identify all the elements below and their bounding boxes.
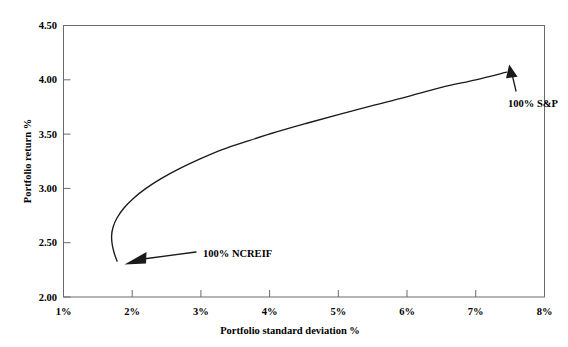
x-tick-label-6pct: 6%	[399, 306, 415, 317]
x-tick-label-4pct: 4%	[262, 306, 278, 317]
x-tick-label-2pct: 2%	[124, 306, 140, 317]
y-tick-label-4.00: 4.00	[39, 74, 57, 85]
y-tick-label-4.50: 4.50	[39, 20, 57, 31]
x-tick-label-7pct: 7%	[468, 306, 484, 317]
annotation-label-sp: 100% S&P	[508, 98, 558, 109]
x-tick-label-8pct: 8%	[537, 306, 553, 317]
y-tick-label-3.50: 3.50	[39, 129, 57, 140]
y-tick-label-2.00: 2.00	[39, 292, 57, 303]
y-tick-label-3.00: 3.00	[39, 183, 57, 194]
y-axis-title: Portfolio return %	[22, 119, 33, 203]
chart-page: 4.50 4.00 3.50 3.00 2.50 2.00 1% 2% 3% 4…	[0, 0, 568, 347]
x-tick-label-5pct: 5%	[330, 306, 346, 317]
x-tick-label-1pct: 1%	[56, 306, 72, 317]
x-axis-title: Portfolio standard deviation %	[220, 325, 360, 336]
chart-background	[0, 0, 568, 347]
efficient-frontier-chart: 4.50 4.00 3.50 3.00 2.50 2.00 1% 2% 3% 4…	[0, 0, 568, 347]
y-tick-label-2.50: 2.50	[39, 237, 57, 248]
x-tick-label-3pct: 3%	[193, 306, 209, 317]
annotation-label-ncreif: 100% NCREIF	[203, 248, 272, 259]
